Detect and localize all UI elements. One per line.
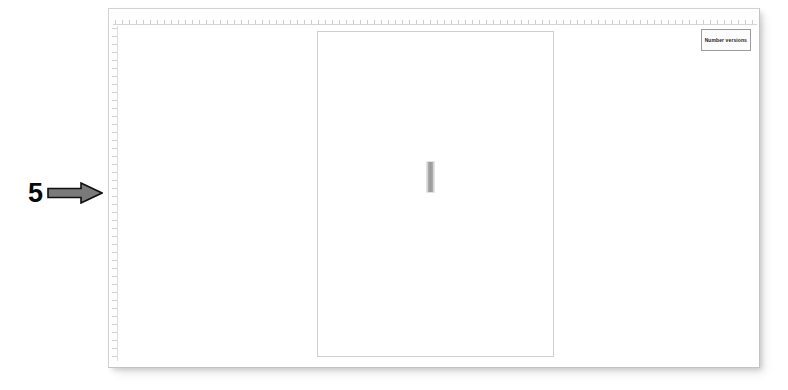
arrow-right-icon: [47, 182, 103, 204]
application-window: Number versions: [108, 8, 760, 368]
vertical-ruler[interactable]: [110, 26, 119, 361]
horizontal-ruler[interactable]: [109, 11, 759, 26]
document-page[interactable]: [317, 31, 554, 357]
annotation-callout: 5: [28, 174, 114, 212]
annotation-step-number: 5: [28, 180, 43, 207]
number-versions-button-label: Number versions: [705, 37, 747, 43]
horizontal-ruler-baseline: [113, 24, 757, 25]
document-canvas[interactable]: [119, 27, 758, 366]
vertical-ruler-edge: [117, 26, 118, 361]
text-caret: [426, 161, 435, 193]
window-inner-surface: Number versions: [109, 9, 759, 367]
number-versions-button[interactable]: Number versions: [701, 29, 751, 51]
page-content-area[interactable]: [318, 32, 553, 356]
